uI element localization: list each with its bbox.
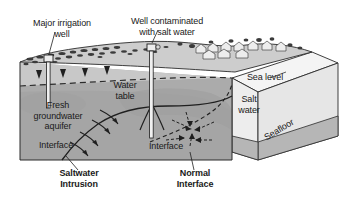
label-major-irrigation-well: Major irrigation well — [14, 18, 110, 39]
label-fresh-groundwater-aquifer: Fresh groundwater aquifer — [20, 100, 96, 132]
label-sea-level: Sea level — [233, 72, 297, 83]
contaminated-wellhead — [147, 44, 156, 51]
wellhead-tank — [156, 45, 160, 49]
label-well-contaminated: Well contaminated with salt water — [112, 16, 222, 37]
label-normal-interface: Normal Interface — [163, 168, 227, 189]
label-interface-left: Interface — [28, 140, 84, 151]
contaminated-well-casing — [150, 51, 154, 138]
label-water-table: Water table — [105, 80, 145, 101]
label-salt-water: Salt water — [231, 94, 267, 115]
label-interface-right: Interface — [138, 141, 194, 152]
label-saltwater-intrusion: Saltwater Intrusion — [44, 168, 114, 189]
saltwater-intrusion-figure: Major irrigation well Well contaminated … — [0, 0, 345, 199]
irrigation-wellhead — [44, 55, 53, 62]
